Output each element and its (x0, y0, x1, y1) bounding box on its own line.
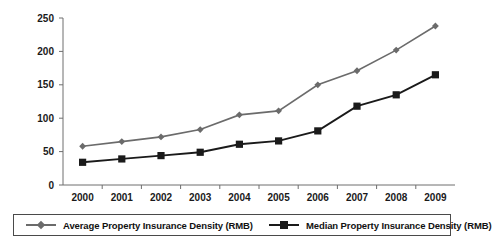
data-point-marker (236, 111, 243, 118)
x-tick-label: 2000 (71, 192, 94, 203)
x-tick-label: 2009 (424, 192, 447, 203)
series-line (83, 75, 436, 163)
y-tick-label: 200 (37, 46, 54, 57)
data-point-marker (79, 143, 86, 150)
series-line (83, 26, 436, 146)
legend-entry-average[interactable]: Average Property Insurance Density (RMB) (14, 219, 253, 231)
y-tick-label: 100 (37, 113, 54, 124)
x-tick-label: 2003 (189, 192, 212, 203)
x-tick-label: 2001 (111, 192, 134, 203)
x-tick-label: 2007 (346, 192, 369, 203)
y-tick-label: 50 (43, 146, 55, 157)
chart-svg: 050100150200250 200020012002200320042005… (0, 0, 467, 208)
data-point-marker (79, 159, 86, 166)
plot-area: 050100150200250 200020012002200320042005… (0, 0, 467, 208)
legend-label-average: Average Property Insurance Density (RMB) (63, 220, 253, 231)
y-tick-label: 150 (37, 79, 54, 90)
y-tick-label: 0 (48, 180, 54, 191)
legend-label-median: Median Property Insurance Density (RMB) (306, 220, 492, 231)
data-point-marker (393, 91, 400, 98)
data-point-marker (118, 138, 125, 145)
chart-legend: Average Property Insurance Density (RMB)… (13, 214, 451, 236)
chart-series (79, 71, 439, 166)
legend-swatch-average-icon (26, 219, 56, 231)
data-point-marker (197, 149, 204, 156)
series-layer (79, 23, 439, 166)
x-tick-label: 2004 (228, 192, 251, 203)
data-point-marker (158, 134, 165, 141)
data-point-marker (118, 155, 125, 162)
x-tick-label: 2005 (267, 192, 290, 203)
data-point-marker (432, 71, 439, 78)
y-tick-label: 250 (37, 13, 54, 24)
data-point-marker (354, 67, 361, 74)
y-tick-group: 050100150200250 (37, 13, 63, 191)
data-point-marker (157, 152, 164, 159)
legend-swatch-median-icon (269, 219, 299, 231)
data-point-marker (314, 127, 321, 134)
x-tick-group: 2000200120022003200420052006200720082009 (71, 185, 446, 203)
data-point-marker (393, 47, 400, 54)
data-point-marker (236, 141, 243, 148)
data-point-marker (353, 103, 360, 110)
x-tick-label: 2002 (150, 192, 173, 203)
legend-entry-median[interactable]: Median Property Insurance Density (RMB) (253, 219, 492, 231)
x-tick-label: 2008 (385, 192, 408, 203)
data-point-marker (197, 126, 204, 133)
data-point-marker (275, 137, 282, 144)
x-tick-label: 2006 (307, 192, 330, 203)
chart-series (79, 23, 439, 150)
